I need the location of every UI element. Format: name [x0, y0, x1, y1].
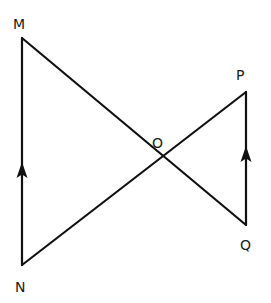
geometry-diagram: M N P Q O [0, 0, 271, 303]
point-label-Q: Q [240, 237, 251, 253]
segment-NP [22, 92, 246, 265]
point-label-M: M [13, 16, 25, 32]
point-label-P: P [236, 67, 244, 83]
point-label-O: O [152, 135, 163, 151]
point-label-N: N [15, 279, 25, 295]
segment-MQ [22, 38, 246, 225]
